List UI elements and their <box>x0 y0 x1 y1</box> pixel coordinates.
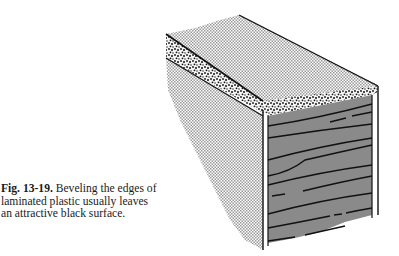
figure-label: Fig. 13-19. <box>1 182 53 195</box>
caption-line-3: an attractive black surface. <box>1 207 125 220</box>
figure: Fig. 13-19. Beveling the edges of lamina… <box>0 0 399 256</box>
caption-line-2: laminated plastic usually leaves <box>1 195 148 208</box>
caption-line-1: Beveling the edges of <box>53 182 157 195</box>
figure-caption: Fig. 13-19. Beveling the edges of lamina… <box>1 183 201 221</box>
